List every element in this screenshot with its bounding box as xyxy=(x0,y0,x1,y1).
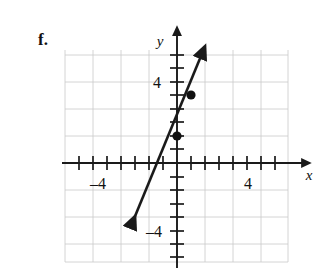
axes xyxy=(62,34,303,268)
marked-point xyxy=(172,131,181,140)
graph-svg: y x –4 4 4 –4 xyxy=(0,0,329,276)
marked-point xyxy=(186,90,195,99)
y-axis-name-label: y xyxy=(155,33,164,49)
x-tick-label-four: 4 xyxy=(244,175,252,192)
y-tick-label-four: 4 xyxy=(153,74,161,91)
figure-root: f. xyxy=(0,0,329,276)
y-tick-label-negative-four: –4 xyxy=(145,223,162,240)
x-axis-name-label: x xyxy=(305,167,313,183)
coordinate-graph: y x –4 4 4 –4 xyxy=(0,0,329,276)
x-tick-label-negative-four: –4 xyxy=(89,175,106,192)
plotted-line xyxy=(131,56,201,226)
